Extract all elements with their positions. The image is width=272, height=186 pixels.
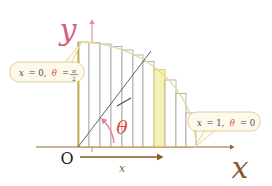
riemann-bar bbox=[89, 43, 100, 148]
riemann-bar-highlighted bbox=[154, 70, 165, 148]
riemann-bar bbox=[78, 42, 89, 147]
origin-label: O bbox=[60, 149, 73, 168]
svg-text:2: 2 bbox=[72, 75, 76, 82]
callout-right-text: x = 1, θ = 0 bbox=[197, 118, 255, 128]
theta-label: θ bbox=[116, 116, 128, 138]
x-axis-label: x bbox=[232, 150, 249, 185]
riemann-bar bbox=[143, 62, 154, 148]
riemann-bar bbox=[100, 44, 111, 147]
y-axis-label: y bbox=[58, 12, 78, 47]
x-measure-label: x bbox=[119, 162, 126, 175]
quarter-circle-riemann-sum-diagram: y x O θ x x = 0, θ = π 2 x = 1, θ = 0 bbox=[0, 0, 272, 186]
riemann-bar bbox=[165, 80, 176, 147]
